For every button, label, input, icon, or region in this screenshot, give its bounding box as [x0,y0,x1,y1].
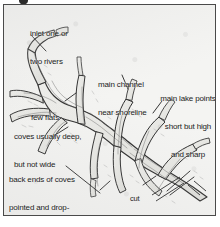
main-channel-line-2: near shoreline [98,108,147,117]
inlet-rivers-line-1: inlet one or [30,29,68,38]
cut-label: cut [130,175,142,216]
inlet-rivers-line-2: two rivers [30,57,68,66]
few-humps-label: few humps; most near junctions [99,197,157,216]
main-lake-points-line-2: short but high [159,122,216,131]
main-channel-line-1: main channel [98,80,147,89]
figure-frame: inlet one or two rivers main channel nea… [3,4,216,216]
main-lake-points-line-1: main lake points [159,94,216,103]
main-lake-points-label: main lake points short but high and shar… [159,75,216,178]
inlet-rivers-label: inlet one or two rivers [30,10,68,85]
coves-deep-line-1: coves usually deep, [14,132,81,141]
main-channel-label: main channel near shoreline [98,61,147,136]
main-lake-points-line-3: and sharp [159,150,216,159]
cuts-deep-label: cuts usually deep, not long as coves [22,197,83,216]
lake-diagram-figure: inlet one or two rivers main channel nea… [0,0,220,227]
back-ends-line-1: back ends of coves [9,175,75,184]
cut-line-1: cut [130,194,142,203]
